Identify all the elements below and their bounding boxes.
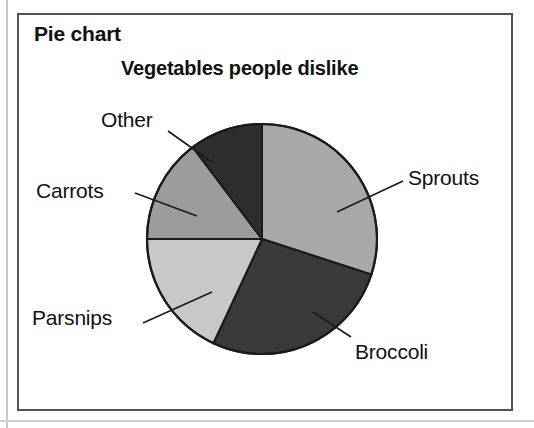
pie-slices [147,124,377,354]
figure-root: Pie chart Vegetables people dislike Spro… [0,0,534,428]
pie-label-parsnips: Parsnips [32,306,112,330]
pie-chart [0,0,534,428]
pie-label-broccoli: Broccoli [355,340,428,364]
pie-label-carrots: Carrots [36,179,103,203]
pie-label-sprouts: Sprouts [408,166,479,190]
pie-label-other: Other [101,108,153,132]
